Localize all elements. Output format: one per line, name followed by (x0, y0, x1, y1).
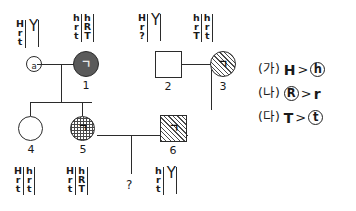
legend-row-na: (나) R > r (258, 86, 325, 101)
chromosome-bar (38, 20, 39, 47)
legend-recessive-na: r (314, 87, 321, 101)
haplotype-5: H r t h R T (66, 167, 89, 195)
sib-drop-4 (30, 102, 31, 116)
legend-tag-na: (나) (258, 87, 280, 100)
chromosome-bar (75, 167, 76, 195)
individual-number-1: 1 (74, 79, 98, 92)
chromosome-bar (176, 167, 177, 194)
sib-drop-5 (82, 102, 83, 116)
haplotype-1-left: h r t (73, 14, 80, 41)
individual-a-label: a (32, 61, 37, 71)
haplotype-2-left: H r ? (138, 14, 146, 41)
chromosome-bar (163, 167, 164, 195)
individual-number-5: 5 (71, 143, 95, 156)
y-chromosome-icon: Y (167, 167, 176, 180)
legend-tag-ga: (가) (258, 63, 280, 76)
descent-line-gen1-left (61, 64, 62, 102)
affection-mark: ㄱ (218, 59, 228, 70)
affection-mark: ㄱ (81, 59, 91, 70)
y-chromosome-icon: Y (151, 14, 160, 27)
pedigree-symbol-1[interactable]: ㄱ (73, 51, 99, 77)
legend-recessive-da: t (308, 110, 323, 125)
dominance-legend: (가) H > h (나) R > r (다) T > t (258, 62, 325, 134)
affection-mark: ㄱ (169, 123, 179, 134)
legend-relation-na: > (301, 87, 312, 100)
haplotype-4-right: h r t (26, 167, 33, 194)
haplotype-3-right: h r t (204, 14, 211, 41)
haplotype-3: h r T h r t (193, 14, 215, 42)
chromosome-bar (87, 167, 88, 195)
affection-mark: ㄱ (78, 123, 88, 134)
chromosome-bar (201, 14, 202, 42)
chromosome-bar (34, 167, 35, 195)
legend-relation-da: > (295, 111, 306, 124)
individual-number-3: 3 (211, 80, 235, 93)
chromosome-bar (212, 14, 213, 42)
legend-dominant-da: T (284, 111, 294, 125)
legend-tag-da: (다) (258, 111, 280, 124)
haplotype-4-left: H r t (14, 167, 22, 194)
haplotype-a-left: H r t (16, 20, 24, 47)
legend-dominant-ga: H (284, 63, 296, 77)
haplotype-1-right: h R T (84, 14, 91, 41)
legend-dominant-na: R (284, 86, 299, 101)
mating-line-2-3-right (186, 64, 212, 65)
chromosome-bar (147, 14, 148, 42)
haplotype-2: H r ? Y (138, 14, 161, 42)
haplotype-6: h r t Y (155, 167, 177, 195)
individual-number-2: 2 (156, 80, 180, 93)
pedigree-symbol-2[interactable] (155, 51, 182, 78)
haplotype-4: H r t h r t (14, 167, 37, 195)
haplotype-1: h r t h R T (73, 14, 95, 42)
haplotype-6-left: h r t (155, 167, 162, 194)
individual-number-4: 4 (19, 143, 43, 156)
haplotype-3-left: h r T (193, 14, 200, 41)
legend-row-ga: (가) H > h (258, 62, 325, 77)
unknown-offspring-label: ? (126, 178, 132, 192)
pedigree-symbol-6[interactable]: ㄱ (160, 115, 187, 142)
legend-row-da: (다) T > t (258, 110, 325, 125)
individual-number-6: 6 (161, 144, 185, 157)
pedigree-symbol-4[interactable] (18, 116, 43, 141)
haplotype-5-left: H r t (66, 167, 74, 194)
chromosome-bar (160, 14, 161, 41)
chromosome-bar (81, 14, 82, 42)
y-chromosome-icon: Y (29, 20, 38, 33)
chromosome-bar (23, 167, 24, 195)
haplotype-5-right: h R T (78, 167, 85, 194)
pedigree-symbol-3[interactable]: ㄱ (210, 51, 236, 77)
legend-relation-ga: > (297, 63, 308, 76)
chromosome-bar (25, 20, 26, 48)
pedigree-symbol-a[interactable]: a (26, 56, 42, 72)
legend-recessive-ga: h (310, 62, 325, 77)
descent-line-unknown (131, 135, 132, 174)
chromosome-bar (93, 14, 94, 42)
haplotype-a: H r t Y (16, 20, 39, 48)
pedigree-symbol-5[interactable]: ㄱ (70, 116, 95, 141)
pedigree-canvas: H r t Y h r t h R T H r ? Y h (0, 0, 356, 211)
